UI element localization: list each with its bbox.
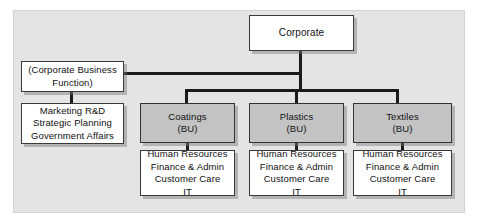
node-functions-plastics: Human Resources Finance & Admin Customer… <box>249 150 344 196</box>
node-corporate-business-function: (Corporate Business Function) <box>21 61 124 92</box>
node-functions-label: Human Resources Finance & Admin Customer… <box>253 148 339 198</box>
connector-corporate-to-cbf <box>124 72 301 75</box>
node-corporate-label: Corporate <box>276 27 327 40</box>
node-business-unit-label: Plastics (BU) <box>277 111 317 136</box>
connector-drop-coatings <box>185 89 188 103</box>
connector-business-unit-bus <box>185 89 399 92</box>
node-functions-textiles: Human Resources Finance & Admin Customer… <box>353 150 452 196</box>
node-functions-label: Human Resources Finance & Admin Customer… <box>144 148 230 198</box>
node-corporate-business-function-label: (Corporate Business Function) <box>25 64 120 89</box>
node-corporate-staff-functions-label: Marketing R&D Strategic Planning Governm… <box>28 105 117 143</box>
node-corporate-staff-functions: Marketing R&D Strategic Planning Governm… <box>21 103 124 144</box>
node-business-unit-plastics: Plastics (BU) <box>249 103 344 143</box>
node-business-unit-coatings: Coatings (BU) <box>140 103 235 143</box>
node-corporate: Corporate <box>249 15 354 51</box>
connector-drop-textiles <box>396 89 399 103</box>
connector-cbf-to-staff <box>70 92 73 103</box>
node-business-unit-label: Coatings (BU) <box>165 111 209 136</box>
node-functions-coatings: Human Resources Finance & Admin Customer… <box>140 150 235 196</box>
org-chart-diagram: Corporate (Corporate Business Function) … <box>0 0 481 222</box>
node-business-unit-label: Textiles (BU) <box>383 111 421 136</box>
node-business-unit-textiles: Textiles (BU) <box>353 103 452 143</box>
connector-drop-plastics <box>295 89 298 103</box>
node-functions-label: Human Resources Finance & Admin Customer… <box>359 148 445 198</box>
